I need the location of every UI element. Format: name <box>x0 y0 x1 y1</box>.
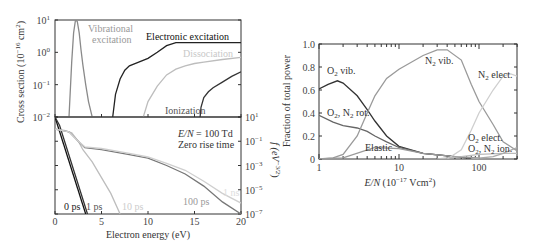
tick-label: 10−2 <box>33 111 51 123</box>
x-tick-label: 100 <box>472 162 487 173</box>
tick-label: 10−1 <box>33 79 51 91</box>
ionization-label: Ionization <box>165 105 206 116</box>
y-tick-label: 0.8 <box>303 62 316 73</box>
y-tick-label: 1.0 <box>303 39 316 50</box>
cross-section-ylabel: Cross section (10−16 cm2) <box>14 21 27 123</box>
tick-label: 100 <box>37 46 51 58</box>
en-annotation: E/N = 100 Td <box>177 128 233 139</box>
electron-energy-xlabel: Electron energy (eV) <box>106 229 190 241</box>
x-tick-label: 5 <box>99 216 104 227</box>
series-vibrational-excitation <box>69 20 92 117</box>
n2-vib-label: N2 vib. <box>425 55 454 68</box>
ion-label: O2, N2 ion. <box>468 143 512 156</box>
label-1ps: 1 ps <box>86 201 103 212</box>
vibrational-label-1: Vibrational <box>88 23 133 34</box>
vibrational-label-2: excitation <box>92 34 131 45</box>
x-tick-label: 10 <box>143 216 153 227</box>
y-tick-label: 0.4 <box>303 108 316 119</box>
figure: 10110010−110−2 10110−110−310−510−7051015… <box>0 0 534 252</box>
zero-rise-annotation: Zero rise time <box>178 139 235 150</box>
tick-label: 10−5 <box>245 184 263 196</box>
label-0ps: 0 ps <box>64 201 81 212</box>
elastic-label: Elastic <box>365 142 393 153</box>
power-fraction-ylabel: Fraction of total power <box>281 54 292 147</box>
y-tick-label: 0.2 <box>303 131 316 142</box>
label-100ps: 100 ps <box>183 196 210 207</box>
label-1ns: 1 ns <box>223 187 240 198</box>
rot-label: O2, N2 rot. <box>327 107 370 120</box>
x-tick-label: 20 <box>236 216 246 227</box>
tick-label: 10−1 <box>245 135 263 147</box>
series-0-ps <box>55 117 86 214</box>
x-tick-label: 15 <box>190 216 200 227</box>
y-tick-label: 0.6 <box>303 85 316 96</box>
tick-label: 10−3 <box>245 160 263 172</box>
n2-elect-label: N2 elect. <box>478 69 513 82</box>
label-10ps: 10 ps <box>122 201 144 212</box>
x-tick-label: 0 <box>53 216 58 227</box>
tick-label: 101 <box>37 14 51 26</box>
x-tick-label: 10 <box>394 162 404 173</box>
electronic-excitation-label: Electronic excitation <box>146 31 229 42</box>
x-tick-label: 1 <box>317 162 322 173</box>
series-ionization <box>200 72 241 117</box>
tick-label: 101 <box>245 111 259 123</box>
o2-vib-label: O2 vib. <box>327 65 356 78</box>
dissociation-label: Dissociation <box>183 48 233 59</box>
en-xlabel: E/N (10−17 Vcm2) <box>364 176 436 189</box>
y-tick-label: 0 <box>310 154 315 165</box>
series-o2-n2-rot- <box>319 115 479 159</box>
tick-label: 10−7 <box>245 208 263 220</box>
